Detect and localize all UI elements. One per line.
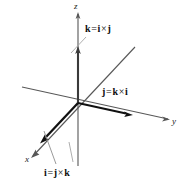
leader-line-i xyxy=(44,131,56,164)
y-axis-line xyxy=(22,87,168,119)
z-axis-label: z xyxy=(74,2,78,11)
equation-i-rhs-right: k xyxy=(64,167,70,178)
x-axis-label: x xyxy=(25,155,29,164)
equation-j-label: j=k×i xyxy=(102,87,128,97)
equation-j-rhs-right: i xyxy=(125,86,128,97)
equation-j-times-icon: × xyxy=(118,86,125,97)
equation-k-lhs: k xyxy=(85,23,91,34)
vector-diagram-figure: z y x k=i×j j=k×i i=j×k xyxy=(0,0,184,189)
equation-i-equals: = xyxy=(47,167,54,178)
y-axis-label: y xyxy=(172,117,176,126)
y-axis-arrowhead xyxy=(162,116,170,121)
equation-j-lhs: j xyxy=(102,86,106,97)
equation-k-label: k=i×j xyxy=(85,24,111,34)
equation-k-equals: = xyxy=(91,23,98,34)
unit-vector-i-segment xyxy=(46,103,78,137)
equation-i-label: i=j×k xyxy=(44,168,70,178)
leader-line-i-secondary xyxy=(69,142,73,162)
equation-k-rhs-right: j xyxy=(107,23,111,34)
